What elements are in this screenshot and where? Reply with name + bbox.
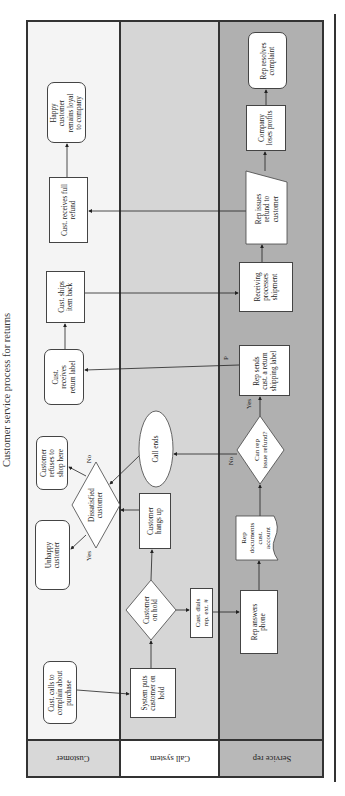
node-receiving: Receivingprocessesshipment — [239, 262, 293, 312]
node-customer-hangs-up: Customerhangs up — [139, 493, 171, 549]
node-cust-dials: Cust. dialsrep. ext. # — [190, 588, 213, 638]
node-rep-sends-label: Rep sendscust. a returnshipping label — [239, 345, 290, 396]
node-happy-customer: Happycustomerremains loyalto company — [47, 82, 86, 143]
node-unhappy-customer: Unhappycustomer — [35, 520, 70, 590]
node-rep-documents-label: Repdocumentscust.account — [236, 516, 276, 560]
node-rep-answers: Rep answersphone — [240, 590, 278, 654]
node-cust-receives-label: Cust.receivesreturn label — [44, 349, 84, 405]
node-rep-resolves: Rep resolvescomplaint — [248, 32, 287, 89]
node-cust-receives-refund: Cust. receives fullrefund — [49, 177, 88, 243]
edge-label-dissatisfied-yes: Yes — [85, 551, 93, 561]
node-cust-calls: Cust. calls tocomplain aboutpurchase — [43, 661, 77, 724]
edge-label-can-rep-no: No — [227, 457, 235, 466]
node-dissatisfied-label: Dissatisfiedcustomer — [72, 462, 120, 548]
node-call-ends-label: Call ends — [139, 411, 173, 487]
edge-label-p: P — [222, 356, 230, 360]
node-rep-issues-label: Rep issuesrefund tocustomer — [246, 174, 287, 244]
node-can-rep-label: Can repissue refund? — [237, 416, 284, 484]
node-system-puts-on-hold: System putscustomer onhold — [130, 668, 176, 718]
node-cust-ships: Cust. shipsitem back — [46, 271, 85, 323]
edge-label-dissatisfied-no: No — [85, 455, 93, 464]
node-customer-on-hold-label: Customeron hold — [126, 580, 176, 640]
node-company-loses: Companyloses profits — [246, 105, 286, 151]
node-customer-refuses: Customerrefuses toshop here — [36, 436, 68, 490]
edge-label-can-rep-yes: Yes — [245, 399, 253, 409]
